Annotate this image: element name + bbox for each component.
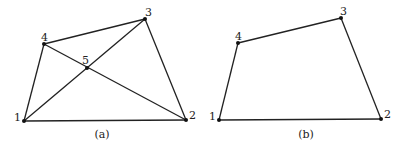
panel-b: 1234(b): [209, 5, 391, 141]
edge-1-2: [219, 119, 381, 120]
node-label-3: 3: [340, 5, 347, 18]
node-label-5: 5: [82, 54, 89, 67]
edge-4-2: [44, 44, 186, 120]
node-2: [184, 118, 188, 122]
node-2: [379, 117, 383, 121]
node-label-3: 3: [145, 6, 152, 19]
diagram-canvas: 12345(a) 1234(b): [0, 0, 398, 146]
node-label-4: 4: [235, 30, 242, 43]
panel-a: 12345(a): [14, 6, 196, 141]
panel-caption: (a): [94, 128, 109, 141]
node-label-1: 1: [209, 110, 216, 123]
edge-3-4: [238, 18, 341, 43]
node-1: [22, 119, 26, 123]
node-label-2: 2: [384, 108, 391, 121]
edge-1-2: [24, 120, 186, 121]
edge-4-1: [24, 44, 44, 121]
panel-caption: (b): [298, 128, 314, 141]
node-label-4: 4: [41, 31, 48, 44]
edge-4-1: [219, 43, 238, 120]
node-1: [217, 118, 221, 122]
edge-2-3: [341, 18, 381, 119]
node-label-2: 2: [189, 109, 196, 122]
node-label-1: 1: [14, 111, 21, 124]
edge-2-3: [145, 19, 186, 120]
